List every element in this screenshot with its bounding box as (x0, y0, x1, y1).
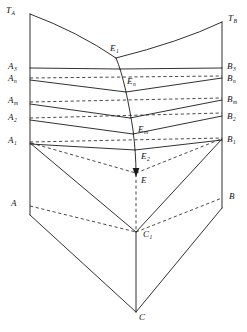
label-e-m: Em (138, 125, 148, 134)
front-edge-a-c (30, 215, 136, 312)
label-b-n: Bn (227, 74, 236, 83)
section-edge-a3-e1 (30, 68, 120, 69)
section-edge-em-bm (130, 100, 222, 118)
label-b3: B3 (227, 62, 236, 71)
label-c: C (139, 313, 145, 322)
hidden-edge-am-bm (30, 98, 222, 102)
hidden-edge-an-bn (30, 76, 222, 78)
label-e2: E2 (141, 152, 150, 161)
label-c1: C1 (143, 230, 152, 239)
label-t-b: TB (228, 14, 237, 23)
label-a-m: Am (8, 96, 18, 105)
label-a: A (11, 199, 17, 208)
phase-diagram-figure: TA TB A3 An Am A2 A1 A B3 Bn Bm B2 B1 B … (0, 0, 247, 332)
front-edge-c-b (136, 208, 222, 312)
liquidus-curve-left (30, 14, 116, 58)
hidden-edge-a1-b1 (30, 138, 222, 142)
section-edge-a1-elow (30, 144, 135, 150)
label-a-n: An (8, 74, 17, 83)
section-edge-an-en (30, 80, 126, 92)
label-t-a: TA (6, 6, 15, 15)
label-e1: E1 (110, 44, 119, 53)
label-e: E (141, 176, 147, 185)
label-a2: A2 (8, 113, 17, 122)
section-edge-elow-b1 (135, 140, 222, 150)
label-e-n: En (127, 77, 136, 86)
section-edge-e1-b3 (120, 68, 222, 69)
hidden-edge-c1-b (136, 198, 222, 232)
liquidus-curve-right (116, 22, 222, 58)
label-b-m: Bm (227, 95, 237, 104)
diagram-canvas (0, 0, 247, 332)
section-edge-am-em (30, 104, 130, 118)
section-edge-en-bn (126, 78, 222, 92)
label-a1: A1 (8, 136, 17, 145)
label-a3: A3 (8, 62, 17, 71)
label-b2: B2 (227, 112, 236, 121)
label-b1: B1 (227, 135, 236, 144)
label-b: B (229, 192, 235, 201)
section-edge-a2-e2 (30, 120, 133, 134)
